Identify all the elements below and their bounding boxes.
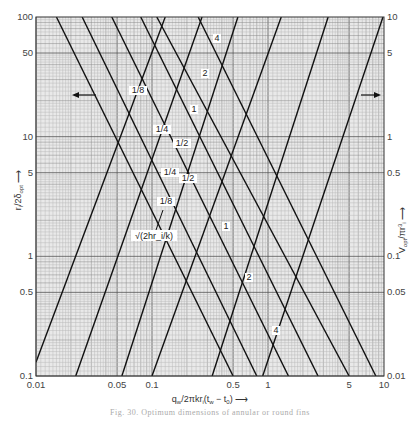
svg-text:4: 4 <box>214 33 219 43</box>
figure-caption: Fig. 30. Optimum dimensions of annular o… <box>0 408 420 417</box>
x-tick-label: 0.1 <box>145 379 158 390</box>
curve-label: 1/8 <box>129 85 147 95</box>
y-right-tick-label: 10 <box>387 11 398 22</box>
svg-text:1: 1 <box>223 221 228 231</box>
svg-text:2: 2 <box>246 272 251 282</box>
y-right-tick-label: 5 <box>387 47 392 58</box>
x-tick-label: 0.05 <box>108 379 127 390</box>
svg-text:Vopt/πr3i ⟶: Vopt/πr3i ⟶ <box>397 207 408 253</box>
x-tick-label: 1 <box>265 379 270 390</box>
curve-label: 1 <box>222 221 230 231</box>
svg-text:ri/2δopt ⟶: ri/2δopt ⟶ <box>13 170 24 211</box>
curve-label: 1/4 <box>153 124 171 134</box>
x-tick-label: 5 <box>346 379 351 390</box>
svg-text:1/4: 1/4 <box>164 167 177 177</box>
svg-text:1: 1 <box>191 104 196 114</box>
curve-label: 1/8 <box>157 196 175 206</box>
curve-label: 1/2 <box>179 173 197 183</box>
y-left-tick-label: 100 <box>17 11 33 22</box>
curve-label: 4 <box>272 325 280 335</box>
plot-area <box>36 17 384 376</box>
svg-text:1/2: 1/2 <box>182 173 195 183</box>
curve-label: 4 <box>213 33 221 43</box>
y-right-axis-title: Vopt/πr3i ⟶ <box>397 207 408 253</box>
y-right-tick-label: 0.05 <box>387 286 406 297</box>
y-right-tick-label: 0.5 <box>387 167 400 178</box>
x-axis-title: qw/2πkri(tw − t0) ⟶ <box>172 394 248 405</box>
y-right-tick-label: 1 <box>387 131 392 142</box>
y-left-tick-label: 10 <box>22 131 33 142</box>
y-left-tick-label: 1 <box>28 250 33 261</box>
y-left-axis-title: ri/2δopt ⟶ <box>13 170 24 211</box>
svg-text:1/8: 1/8 <box>132 85 145 95</box>
curve-label: 2 <box>245 272 253 282</box>
svg-text:4: 4 <box>273 325 278 335</box>
curve-label: 1/2 <box>173 138 191 148</box>
x-tick-label: 0.5 <box>226 379 239 390</box>
y-right-tick-label: 0.01 <box>387 370 406 381</box>
y-left-tick-label: 50 <box>22 47 33 58</box>
y-left-tick-label: 0.1 <box>20 370 33 381</box>
curve-label: 1/4 <box>161 167 179 177</box>
svg-text:2: 2 <box>202 68 207 78</box>
y-left-tick-label: 0.5 <box>20 286 33 297</box>
log-log-chart: 0.010.050.10.515101005010510.50.110510.5… <box>0 0 420 421</box>
curve-label: 2 <box>201 68 209 78</box>
curve-label: 1 <box>190 104 198 114</box>
svg-text:1/4: 1/4 <box>156 124 169 134</box>
y-left-tick-label: 5 <box>28 167 33 178</box>
svg-text:1/2: 1/2 <box>176 138 189 148</box>
svg-text:√(2hr_i/k): √(2hr_i/k) <box>135 231 173 241</box>
svg-text:1/8: 1/8 <box>160 196 173 206</box>
sqrt-parameter-label: √(2hr_i/k) <box>131 230 177 241</box>
